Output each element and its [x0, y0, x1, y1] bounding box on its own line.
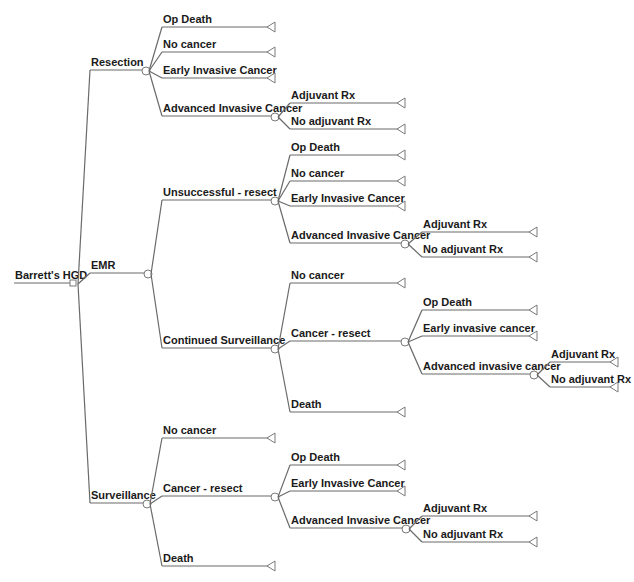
connector-line: [278, 201, 290, 243]
decision-node-icon: [70, 280, 76, 286]
chance-node-icon: [401, 338, 409, 346]
branch-label: Op Death: [291, 141, 340, 153]
branch-early-invasive-cancer: Early Invasive Cancer: [278, 192, 405, 211]
branch-label: Early Invasive Cancer: [291, 192, 405, 204]
connector-line: [409, 529, 422, 542]
connector-line: [278, 497, 290, 528]
chance-node-icon: [143, 500, 151, 508]
connector-line: [408, 342, 422, 374]
branch-resection: Resection: [78, 56, 150, 284]
connector-line: [78, 284, 90, 503]
branch-label: Op Death: [423, 296, 472, 308]
branch-barrett-s-hgd: Barrett's HGD: [14, 269, 87, 286]
branch-label: Continued Surveillance: [163, 334, 285, 346]
branch-label: No adjuvant Rx: [551, 373, 632, 385]
branch-early-invasive-cancer: Early Invasive Cancer: [278, 477, 405, 497]
branch-death: Death: [278, 349, 405, 417]
branch-label: No cancer: [291, 269, 345, 281]
terminal-node-icon: [397, 176, 405, 186]
branch-label: Barrett's HGD: [15, 269, 87, 281]
branch-cancer-resect: Cancer - resect: [278, 327, 409, 349]
terminal-node-icon: [529, 511, 537, 521]
connector-line: [150, 438, 162, 504]
branch-label: No cancer: [163, 38, 217, 50]
connector-line: [278, 155, 290, 201]
branch-cancer-resect: Cancer - resect: [150, 482, 279, 504]
connector-line: [149, 52, 162, 71]
branch-label: EMR: [91, 259, 116, 271]
branch-label: Advanced Invasive Cancer: [291, 514, 431, 526]
branch-death: Death: [150, 504, 275, 571]
terminal-node-icon: [397, 460, 405, 470]
branch-label: Death: [163, 552, 194, 564]
branch-op-death: Op Death: [408, 296, 537, 342]
connector-line: [149, 71, 162, 116]
branch-continued-surveillance: Continued Surveillance: [151, 274, 285, 353]
branch-label: Adjuvant Rx: [291, 89, 356, 101]
connector-line: [149, 27, 162, 71]
branch-label: No adjuvant Rx: [291, 115, 372, 127]
terminal-node-icon: [397, 124, 405, 134]
chance-node-icon: [271, 197, 279, 205]
chance-node-icon: [144, 270, 152, 278]
branch-label: Op Death: [291, 451, 340, 463]
branch-early-invasive-cancer: Early invasive cancer: [408, 322, 537, 342]
connector-line: [278, 181, 290, 201]
terminal-node-icon: [529, 252, 537, 262]
connector-line: [278, 117, 290, 129]
branch-no-adjuvant-rx: No adjuvant Rx: [409, 528, 537, 547]
branch-label: Early Invasive Cancer: [163, 64, 277, 76]
branch-label: Resection: [91, 56, 144, 68]
terminal-node-icon: [267, 47, 275, 57]
connector-line: [537, 375, 550, 387]
branch-no-adjuvant-rx: No adjuvant Rx: [408, 243, 537, 262]
connector-line: [151, 274, 162, 348]
terminal-node-icon: [267, 22, 275, 32]
chance-node-icon: [271, 113, 279, 121]
branch-label: Cancer - resect: [163, 482, 243, 494]
chance-node-icon: [530, 371, 538, 379]
branch-label: No adjuvant Rx: [423, 243, 504, 255]
chance-node-icon: [402, 525, 410, 533]
branch-no-adjuvant-rx: No adjuvant Rx: [278, 115, 405, 134]
branch-label: Cancer - resect: [291, 327, 371, 339]
branch-label: Adjuvant Rx: [551, 348, 616, 360]
terminal-node-icon: [529, 227, 537, 237]
branch-label: Early invasive cancer: [423, 322, 536, 334]
terminal-node-icon: [397, 98, 405, 108]
branch-op-death: Op Death: [278, 451, 405, 497]
chance-node-icon: [271, 345, 279, 353]
connector-line: [408, 244, 422, 257]
branch-label: No adjuvant Rx: [423, 528, 504, 540]
branch-unsuccessful-resect: Unsuccessful - resect: [151, 186, 279, 274]
chance-node-icon: [271, 493, 279, 501]
branch-label: No cancer: [291, 167, 345, 179]
branch-emr: EMR: [78, 259, 152, 284]
connector-line: [278, 349, 290, 412]
terminal-node-icon: [267, 561, 275, 571]
branch-label: Advanced Invasive Cancer: [291, 229, 431, 241]
chance-node-icon: [142, 67, 150, 75]
terminal-node-icon: [529, 537, 537, 547]
branch-no-adjuvant-rx: No adjuvant Rx: [537, 373, 632, 392]
connector-line: [150, 504, 162, 566]
branch-label: Advanced invasive cancer: [423, 360, 561, 372]
branch-label: Adjuvant Rx: [423, 218, 488, 230]
chance-node-icon: [401, 240, 409, 248]
connector-line: [151, 200, 162, 274]
branch-label: Op Death: [163, 13, 212, 25]
branch-label: Death: [291, 398, 322, 410]
terminal-node-icon: [267, 433, 275, 443]
branch-early-invasive-cancer: Early Invasive Cancer: [149, 64, 277, 83]
terminal-node-icon: [397, 407, 405, 417]
branch-advanced-invasive-cancer: Advanced Invasive Cancer: [278, 497, 431, 533]
connector-line: [78, 70, 90, 284]
decision-tree: Barrett's HGDResectionOp DeathNo cancerE…: [0, 0, 634, 582]
branch-label: No cancer: [163, 424, 217, 436]
branch-label: Adjuvant Rx: [423, 502, 488, 514]
branch-advanced-invasive-cancer: Advanced Invasive Cancer: [278, 201, 431, 248]
terminal-node-icon: [397, 150, 405, 160]
branch-label: Early Invasive Cancer: [291, 477, 405, 489]
branch-label: Unsuccessful - resect: [163, 186, 277, 198]
branch-label: Surveillance: [91, 489, 156, 501]
